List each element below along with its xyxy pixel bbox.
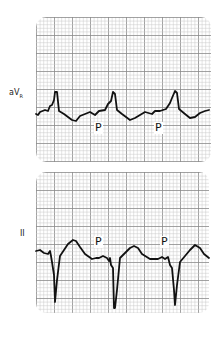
- ecg-strip-ii: [36, 172, 209, 313]
- lead-label-avr: aVR: [9, 88, 23, 99]
- p-wave-label: P: [94, 236, 103, 248]
- grid-paper: [36, 172, 209, 313]
- lead-label-sub: R: [19, 93, 22, 99]
- lead-label-main: aV: [9, 88, 19, 97]
- grid-paper: [36, 17, 211, 162]
- p-wave-label: P: [94, 122, 103, 134]
- p-wave-label: P: [160, 236, 169, 248]
- p-wave-label: P: [154, 122, 163, 134]
- lead-label-main: II: [20, 229, 25, 238]
- ecg-strip-avr: [36, 17, 211, 162]
- lead-label-ii: II: [20, 229, 25, 238]
